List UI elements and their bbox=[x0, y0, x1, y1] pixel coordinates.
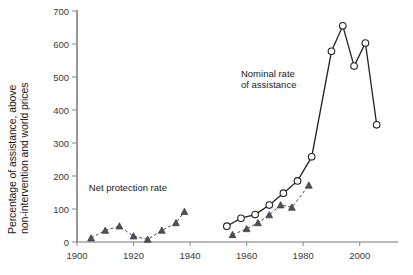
y-axis-title-line-2: non-intervention and world prices bbox=[18, 83, 30, 234]
y-tick-label-100: 100 bbox=[53, 204, 69, 215]
x-tick-label-1960: 1960 bbox=[236, 250, 257, 261]
data-point-circle bbox=[280, 190, 287, 197]
x-tick-label-1920: 1920 bbox=[123, 250, 144, 261]
x-tick-label-1980: 1980 bbox=[293, 250, 314, 261]
x-tick-label-1900: 1900 bbox=[66, 250, 87, 261]
y-tick-label-0: 0 bbox=[64, 237, 69, 248]
series-line-1-0 bbox=[227, 26, 377, 226]
y-tick-label-400: 400 bbox=[53, 105, 69, 116]
annotation-nominal-rate-line-2: of assistance bbox=[241, 79, 296, 90]
data-point-circle bbox=[362, 40, 369, 47]
chart-container: 0100200300400500600700190019201940196019… bbox=[0, 0, 413, 275]
series-nominal-rate-of-assistance bbox=[224, 23, 380, 230]
data-point-circle bbox=[308, 154, 315, 161]
chart-figure: 0100200300400500600700190019201940196019… bbox=[0, 0, 413, 275]
x-tick-label-1940: 1940 bbox=[180, 250, 201, 261]
y-tick-label-700: 700 bbox=[53, 6, 69, 17]
data-point-circle bbox=[294, 178, 301, 185]
y-tick-label-600: 600 bbox=[53, 39, 69, 50]
data-point-circle bbox=[266, 202, 273, 209]
y-tick-label-300: 300 bbox=[53, 138, 69, 149]
data-point-circle bbox=[351, 63, 358, 70]
data-point-triangle bbox=[305, 182, 312, 188]
data-point-triangle bbox=[88, 235, 95, 241]
data-point-triangle bbox=[229, 231, 236, 237]
x-tick-label-2000: 2000 bbox=[349, 250, 370, 261]
data-point-triangle bbox=[181, 208, 188, 214]
annotation-net-protection-rate: Net protection rate bbox=[89, 182, 167, 193]
data-point-triangle bbox=[158, 227, 165, 233]
data-point-triangle bbox=[116, 223, 123, 229]
data-point-circle bbox=[339, 23, 346, 30]
data-point-circle bbox=[238, 215, 245, 222]
data-point-triangle bbox=[130, 233, 137, 239]
data-point-circle bbox=[224, 223, 231, 230]
y-tick-label-500: 500 bbox=[53, 72, 69, 83]
series-line-0-1 bbox=[233, 185, 309, 235]
data-point-circle bbox=[328, 48, 335, 55]
data-point-triangle bbox=[243, 225, 250, 231]
series-line-0-0 bbox=[91, 212, 184, 240]
y-axis-title-line-1: Percentage of assistance, above bbox=[6, 84, 18, 234]
data-point-circle bbox=[373, 122, 380, 129]
data-point-circle bbox=[252, 211, 259, 218]
data-point-triangle bbox=[255, 219, 262, 225]
annotation-nominal-rate-line-1: Nominal rate bbox=[241, 68, 295, 79]
data-point-triangle bbox=[277, 202, 284, 208]
y-tick-label-200: 200 bbox=[53, 171, 69, 182]
